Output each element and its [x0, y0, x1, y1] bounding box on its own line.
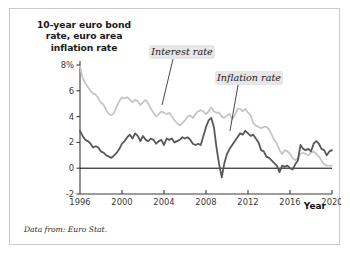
xaxis-tick-label: 2008 [195, 197, 216, 207]
yaxis-tick-label: 2 [69, 137, 74, 147]
xaxis-tick-label: 1996 [69, 197, 90, 207]
xaxis-tick-label: 2004 [153, 197, 174, 207]
yaxis-tick-label: 0 [69, 163, 74, 173]
xaxis-tick-label: 2000 [111, 197, 132, 207]
line-chart: 8%6420-21996200020042008201220162020 Int… [10, 9, 341, 246]
callout-leader-line [162, 59, 173, 105]
figure-card: 10-year euro bond rate, euro area inflat… [9, 8, 340, 245]
callout-label: Interest rate [150, 46, 213, 57]
source-note: Data from: Euro Stat. [24, 225, 107, 234]
series-lines [80, 66, 332, 177]
xaxis-title: Year [303, 201, 327, 211]
callout-leader-line [230, 85, 238, 131]
yaxis-tick-label: 4 [69, 112, 74, 122]
yaxis-tick-label: 6 [69, 86, 74, 96]
yaxis-tick-label: 8% [61, 60, 74, 70]
axes: 8%6420-21996200020042008201220162020 [61, 60, 341, 207]
callout-label: Inflation rate [216, 72, 281, 83]
xaxis-tick-label: 2016 [279, 197, 300, 207]
xaxis-tick-label: 2012 [237, 197, 258, 207]
series-callouts: Interest rateInflation rate [149, 45, 283, 131]
